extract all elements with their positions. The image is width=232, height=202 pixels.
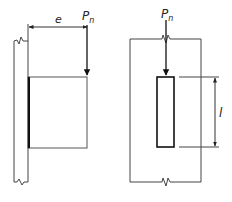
- load-label-right-sub: n: [168, 14, 173, 23]
- load-label-left-sub: n: [89, 16, 94, 25]
- load-label-left: Pn: [82, 9, 94, 25]
- column-outline: [14, 24, 28, 182]
- diagram-canvas: e Pn Pn l: [0, 0, 232, 202]
- bracket-box: [28, 77, 87, 148]
- break-symbol-top-icon: [14, 37, 28, 44]
- eccentricity-label: e: [55, 13, 62, 26]
- left-figure: e Pn: [14, 9, 94, 185]
- length-label: l: [219, 106, 223, 120]
- break-symbol-bottom-icon: [14, 179, 28, 185]
- load-label-right: Pn: [161, 7, 173, 23]
- right-figure: Pn l: [130, 7, 223, 186]
- break-symbol-frame-bottom-icon: [162, 178, 170, 186]
- bearing-plate: [157, 77, 174, 147]
